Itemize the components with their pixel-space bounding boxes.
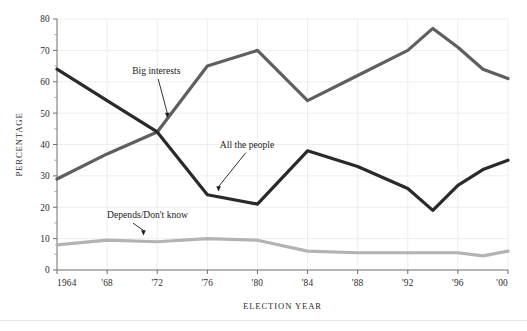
x-tick-label: '88 bbox=[352, 278, 364, 288]
x-axis-label: ELECTION YEAR bbox=[243, 301, 322, 311]
chart-figure: 01020304050607080 1964'68'72'76'80'84'88… bbox=[0, 0, 527, 331]
y-axis-ticks: 01020304050607080 bbox=[40, 14, 57, 275]
annotation-label: All the people bbox=[220, 139, 274, 150]
y-tick-label: 30 bbox=[40, 171, 50, 181]
x-tick-label: '68 bbox=[101, 278, 113, 288]
x-tick-label: '84 bbox=[302, 278, 314, 288]
series-line bbox=[57, 28, 508, 179]
x-tick-label: '96 bbox=[452, 278, 464, 288]
annotation-leader-line bbox=[133, 223, 143, 230]
annotation-leader-line bbox=[219, 153, 246, 187]
y-tick-label: 0 bbox=[45, 265, 50, 275]
data-series-group bbox=[57, 28, 508, 255]
y-tick-label: 40 bbox=[40, 140, 50, 150]
y-tick-label: 20 bbox=[40, 203, 50, 213]
line-chart: 01020304050607080 1964'68'72'76'80'84'88… bbox=[0, 0, 527, 331]
y-tick-label: 80 bbox=[40, 14, 50, 24]
x-tick-label: '92 bbox=[402, 278, 414, 288]
x-tick-label: '80 bbox=[252, 278, 264, 288]
x-tick-label: '00 bbox=[496, 278, 508, 288]
annotation-label: Big interests bbox=[132, 65, 180, 76]
x-tick-label: '76 bbox=[201, 278, 213, 288]
y-tick-label: 10 bbox=[40, 234, 50, 244]
y-axis-label: PERCENTAGE bbox=[14, 112, 24, 176]
annotation-leader-line bbox=[158, 79, 167, 113]
x-tick-label: '72 bbox=[151, 278, 163, 288]
annotation-arrowhead bbox=[216, 186, 221, 191]
y-tick-label: 50 bbox=[40, 109, 50, 119]
annotation-label: Depends/Don't know bbox=[107, 209, 188, 220]
x-tick-label: 1964 bbox=[57, 278, 77, 288]
series-line bbox=[57, 239, 508, 256]
bottom-divider bbox=[0, 320, 527, 321]
annotation-arrowhead bbox=[141, 230, 146, 235]
y-tick-label: 60 bbox=[40, 77, 50, 87]
x-axis-ticks: 1964'68'72'76'80'84'88'92'96'00 bbox=[57, 270, 508, 288]
series-line bbox=[57, 69, 508, 210]
y-tick-label: 70 bbox=[40, 46, 50, 56]
